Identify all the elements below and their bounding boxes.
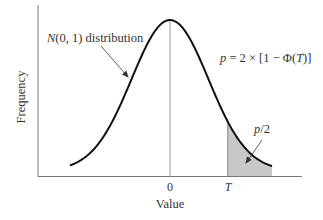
x-tick-zero: 0 xyxy=(167,180,173,194)
curve-annotation-arrow xyxy=(101,46,128,77)
normal-distribution-chart: N(0, 1) distribution p = 2 × [1 − Φ(T)] … xyxy=(0,0,323,220)
curve-annotation-label: N(0, 1) distribution xyxy=(46,31,144,45)
p-value-formula: p = 2 × [1 − Φ(T)] xyxy=(219,51,311,65)
x-axis-label: Value xyxy=(156,197,185,211)
x-tick-t: T xyxy=(225,180,233,194)
y-axis-label: Frequency xyxy=(14,70,28,124)
tail-area-label: p/2 xyxy=(253,122,270,136)
